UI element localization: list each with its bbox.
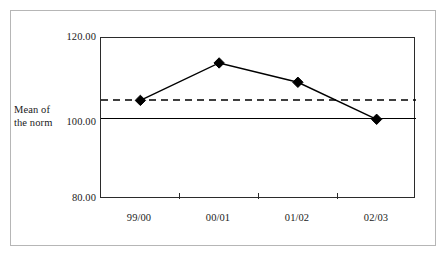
x-tick-label-1: 99/00 [106,212,172,223]
data-point-marker [371,114,381,124]
y-tick-label-120: 120.00 [54,31,96,42]
data-point-markers [135,58,382,125]
y-tick-label-100: 100.00 [54,116,96,127]
data-point-marker [214,58,224,68]
x-axis-tick-labels: 99/00 00/01 01/02 02/03 [100,212,415,230]
plot-svg [101,38,416,199]
x-tick-label-4: 02/03 [343,212,409,223]
y-tick-label-80: 80.00 [54,192,96,203]
x-tick-label-3: 01/02 [264,212,330,223]
data-point-marker [293,77,303,87]
y-axis-tick-labels: 120.00 100.00 80.00 [52,0,96,266]
data-series-line [140,63,376,119]
x-tick-label-2: 00/01 [185,212,251,223]
x-axis-ticks [180,193,338,199]
plot-area [100,37,415,198]
data-point-marker [135,95,145,105]
chart-figure: Mean of the norm 120.00 100.00 80.00 99/… [0,0,447,266]
